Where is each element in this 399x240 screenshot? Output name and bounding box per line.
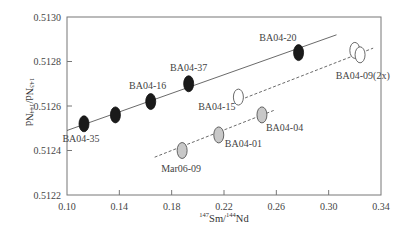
x-tick-label: 0.30 bbox=[320, 201, 338, 212]
point-label: BA04-09(2x) bbox=[336, 70, 390, 82]
point-label: BA04-37 bbox=[170, 62, 207, 73]
x-tick-label: 0.14 bbox=[111, 201, 129, 212]
x-title-sup1: 147 bbox=[199, 211, 209, 218]
data-point bbox=[177, 143, 187, 159]
data-point bbox=[257, 107, 267, 123]
x-title-el1: Sm/ bbox=[209, 213, 226, 224]
data-point bbox=[79, 116, 89, 132]
point-label: BA04-20 bbox=[259, 32, 296, 43]
x-title-sup2: 144 bbox=[226, 211, 236, 218]
point-label: BA04-16 bbox=[129, 80, 166, 91]
point-label: Mar06-09 bbox=[161, 163, 201, 174]
data-point bbox=[294, 45, 304, 61]
y-axis-title: 143Nd/144Nd bbox=[22, 67, 36, 137]
y-title-sup2: 144 bbox=[29, 103, 36, 113]
data-point bbox=[110, 107, 120, 123]
data-point bbox=[214, 127, 224, 143]
x-axis-title: 147Sm/144Nd bbox=[174, 211, 274, 224]
point-label: BA04-35 bbox=[62, 133, 99, 144]
isochron-chart: 0.100.140.180.220.260.300.340.51220.5124… bbox=[0, 0, 399, 240]
data-point bbox=[146, 94, 156, 110]
y-title-sup1: 143 bbox=[29, 78, 36, 88]
data-point bbox=[355, 47, 365, 63]
y-tick-label: 0.5126 bbox=[34, 101, 62, 112]
y-title-el2: Nd bbox=[24, 113, 35, 126]
x-tick-label: 0.34 bbox=[372, 201, 390, 212]
point-label: BA04-15 bbox=[198, 101, 235, 112]
x-title-el2: Nd bbox=[236, 213, 249, 224]
data-point bbox=[184, 76, 194, 92]
y-tick-label: 0.5130 bbox=[34, 12, 62, 23]
point-label: BA04-01 bbox=[225, 138, 262, 149]
y-tick-label: 0.5122 bbox=[34, 190, 62, 201]
y-title-el1: Nd/ bbox=[24, 88, 35, 104]
y-tick-label: 0.5128 bbox=[34, 56, 62, 67]
x-tick-label: 0.10 bbox=[58, 201, 76, 212]
y-tick-label: 0.5124 bbox=[34, 145, 62, 156]
point-label: BA04-04 bbox=[266, 122, 303, 133]
